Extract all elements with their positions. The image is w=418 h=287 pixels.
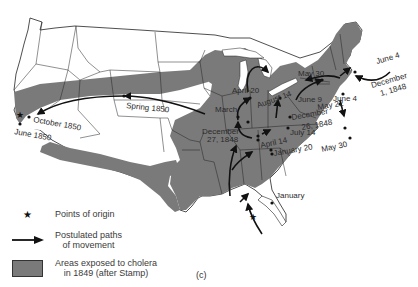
label-june-4-ne: June 4: [375, 50, 401, 65]
label-april-20: April 20: [232, 86, 260, 95]
legend-item-origin: ★ Points of origin: [0, 209, 115, 220]
label-march: March: [215, 105, 237, 114]
legend: ★ Points of origin Postulated paths of m…: [0, 205, 200, 287]
label-may-30-south: May 30: [321, 140, 349, 154]
legend-item-paths: Postulated paths of movement: [0, 230, 122, 250]
label-december-27-line2: 27, 1848: [207, 135, 239, 144]
path-new-orleans-east: [240, 194, 248, 202]
legend-label-exposed-line1: Areas exposed to cholera: [55, 258, 157, 268]
legend-item-exposed: Areas exposed to cholera in 1849 (after …: [0, 258, 157, 278]
star-icon: ★: [0, 209, 55, 220]
legend-label-paths-line2: of movement: [55, 240, 122, 250]
gray-swatch: [12, 260, 43, 277]
label-may-30-north: May 30: [298, 69, 325, 78]
legend-label-paths-line1: Postulated paths: [55, 230, 122, 240]
legend-label-exposed-line2: in 1849 (after Stamp): [55, 268, 157, 278]
legend-label-origin: Points of origin: [55, 209, 115, 219]
panel-label: (c): [196, 270, 207, 280]
label-january: January: [276, 191, 304, 200]
star-new-orleans: ★: [249, 212, 257, 222]
star-california: ★: [16, 110, 24, 120]
arrow-icon: [0, 230, 55, 244]
label-july-14: July 14: [290, 128, 316, 137]
